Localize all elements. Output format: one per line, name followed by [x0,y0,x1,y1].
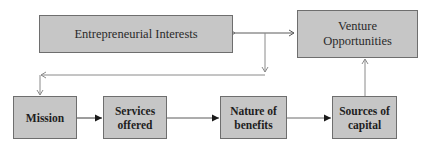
node-services-offered: Services offered [103,96,167,139]
node-label-line-1: Nature of [230,104,277,118]
node-label: Entrepreneurial Interests [74,27,197,42]
node-label-line-1: Services [115,104,155,118]
node-label-line-2: Opportunities [323,34,392,49]
node-sources-of-capital: Sources of capital [332,96,397,139]
node-venture-opportunities: Venture Opportunities [297,10,418,58]
node-label-line-2: benefits [234,118,272,132]
node-label-line-2: offered [118,118,153,132]
node-mission: Mission [13,96,77,139]
node-entrepreneurial-interests: Entrepreneurial Interests [39,15,233,53]
node-label-line-1: Sources of [339,104,390,118]
node-label: Mission [26,111,64,125]
node-label-line-2: capital [348,118,381,132]
node-nature-of-benefits: Nature of benefits [220,96,287,139]
node-label-line-1: Venture [338,19,377,34]
